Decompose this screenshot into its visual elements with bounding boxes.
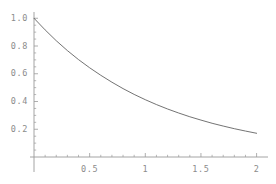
x-axis-tick-label: 2	[227, 165, 276, 174]
x-axis-tick-label: 0.5	[60, 165, 120, 174]
x-axis-tick-label: 1.5	[171, 165, 231, 174]
y-axis-major-ticks	[34, 18, 38, 129]
plot-canvas	[0, 0, 276, 184]
x-axis-major-ticks	[90, 153, 257, 157]
y-axis-tick-label: 0.4	[11, 97, 28, 106]
x-axis-tick-label: 1	[115, 165, 175, 174]
y-axis-tick-label: 0.6	[11, 69, 28, 78]
y-axis-tick-label: 0.2	[11, 125, 28, 134]
y-axis-tick-label: 0.8	[11, 42, 28, 51]
data-curve-exponential-decay	[34, 18, 257, 133]
axes-group	[30, 12, 268, 172]
plot-figure: 1.00.80.60.40.2 0.511.52	[0, 0, 276, 184]
y-axis-tick-label: 1.0	[11, 14, 28, 23]
